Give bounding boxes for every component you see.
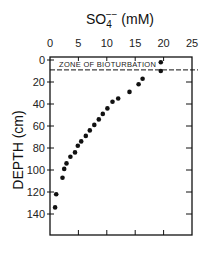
data-point xyxy=(97,117,102,122)
data-point xyxy=(127,90,132,95)
x-tick-label: 0 xyxy=(47,37,53,49)
plot-frame xyxy=(50,57,192,235)
data-point xyxy=(76,144,81,149)
data-point xyxy=(101,112,106,117)
y-tick-label: 0 xyxy=(39,54,45,66)
data-points xyxy=(53,60,163,210)
y-axis: 020406080100120140 xyxy=(27,54,192,220)
y-tick-label: 60 xyxy=(33,120,45,132)
data-point xyxy=(62,167,67,172)
y-tick-label: 120 xyxy=(27,186,45,198)
data-point xyxy=(136,82,141,87)
data-point xyxy=(159,69,164,74)
y-tick-label: 100 xyxy=(27,164,45,176)
chart-title: SO4−− (mM) xyxy=(86,9,154,30)
x-tick-label: 5 xyxy=(75,37,81,49)
data-point xyxy=(92,123,97,128)
data-point xyxy=(116,96,121,101)
data-point xyxy=(53,205,58,210)
data-point xyxy=(64,161,69,166)
y-tick-label: 140 xyxy=(27,208,45,220)
data-point xyxy=(79,139,84,144)
data-point xyxy=(73,150,78,155)
data-point xyxy=(60,175,65,180)
data-point xyxy=(54,192,59,197)
bioturbation-zone-label: ZONE OF BIOTURBATION xyxy=(59,60,156,69)
data-point xyxy=(159,60,164,65)
x-tick-label: 25 xyxy=(186,37,198,49)
x-tick-label: 15 xyxy=(129,37,141,49)
y-tick-label: 20 xyxy=(33,76,45,88)
annotations: ZONE OF BIOTURBATION xyxy=(50,60,198,70)
chart: SO4−− (mM) 0510152025 020406080100120140… xyxy=(0,0,208,254)
chart-title-text: SO4−− (mM) xyxy=(86,9,154,30)
x-tick-label: 20 xyxy=(157,37,169,49)
y-axis-label: DEPTH (cm) xyxy=(10,110,26,189)
data-point xyxy=(140,76,145,81)
x-tick-label: 10 xyxy=(101,37,113,49)
data-point xyxy=(105,106,110,111)
data-point xyxy=(84,134,89,139)
data-point xyxy=(88,128,93,133)
y-tick-label: 40 xyxy=(33,98,45,110)
data-point xyxy=(68,155,73,160)
data-point xyxy=(110,100,115,105)
y-tick-label: 80 xyxy=(33,142,45,154)
